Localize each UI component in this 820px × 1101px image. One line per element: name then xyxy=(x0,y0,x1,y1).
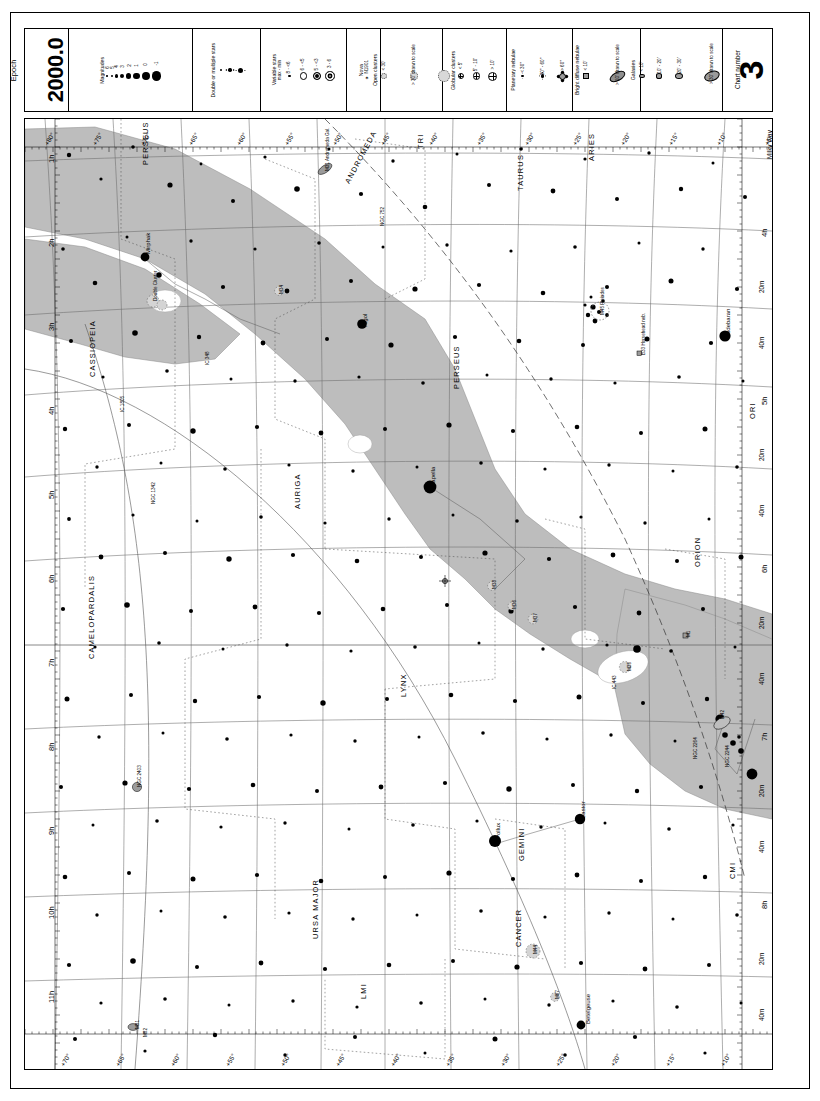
legend-ocl-label: > 30' drawn to scale xyxy=(409,44,418,85)
legend-chart-number: Chart number 3 xyxy=(723,29,772,111)
legend-mag-label: -1 xyxy=(152,62,161,66)
double-star-symbol-small xyxy=(220,69,222,71)
legend-var-label: 6 - <5 xyxy=(299,59,308,71)
legend-epoch: Epoch 2000.0 xyxy=(25,29,69,111)
legend-gx-3: 20' - 30' xyxy=(670,29,688,111)
axis-tick-label: 20m xyxy=(758,953,765,965)
deep-sky-label: M34 xyxy=(279,285,284,294)
axis-tick-label: 20m xyxy=(758,449,765,461)
constellation-label: ORI xyxy=(748,402,757,419)
legend-gcl-label: < 5' xyxy=(456,62,465,69)
deep-sky-label: NGC 752 xyxy=(380,207,385,226)
axis-tick-label: 5h xyxy=(760,397,769,405)
constellation-label: LYNX xyxy=(399,673,408,697)
constellation-label: CAMELOPARDALIS xyxy=(87,575,96,659)
axis-tick-label: 4h xyxy=(760,229,769,237)
axis-tick-label: 4h xyxy=(47,407,56,415)
deep-sky-label: NGC 2244 xyxy=(725,745,730,767)
axis-tick-label: 40m xyxy=(758,841,765,853)
constellation-label: AURIGA xyxy=(293,473,302,509)
constellation-label: CANCER xyxy=(514,909,523,947)
constellation-label: LMI xyxy=(359,983,368,999)
star-name-label: Aldebaran xyxy=(725,309,731,336)
star-name-label: Capella xyxy=(430,467,436,487)
legend-bn-1: < 10' xyxy=(580,29,592,111)
constellation-label: CASSIOPEIA xyxy=(88,320,97,377)
star-name-label: Pollux xyxy=(495,823,501,839)
deep-sky-label: NGC 1342 xyxy=(151,482,156,504)
axis-tick-label: 7h xyxy=(47,659,56,667)
legend-gcl-label: > 10' xyxy=(488,59,497,69)
legend-ocl-1: < 30' xyxy=(378,29,390,111)
legend-var-1: 8 - <6 xyxy=(282,29,296,111)
legend-var-4: 3 - 6 xyxy=(324,29,335,111)
constellation-label: GEMINI xyxy=(517,828,526,861)
deep-sky-label: M44 xyxy=(533,945,538,954)
axis-tick-label: 6h xyxy=(760,565,769,573)
legend-open-clusters-title: Open clusters xyxy=(372,54,378,86)
deep-sky-label: M81 xyxy=(135,1020,140,1029)
legend-gx-1: < 10' xyxy=(636,29,648,111)
axis-tick-label: 8h xyxy=(760,901,769,909)
deep-sky-label: M1 xyxy=(686,631,691,637)
axis-tick-label: 2h xyxy=(47,239,56,247)
legend-var-2: 6 - <5 xyxy=(296,29,310,111)
legend-mag-label: 1 xyxy=(132,64,141,67)
deep-sky-label: B33 Horsehead neb. xyxy=(641,313,646,355)
legend-gcl-2: 5' - 10' xyxy=(468,29,484,111)
legend-pn-3: > 60" xyxy=(556,29,569,111)
legend-pn-label: < 30" xyxy=(518,62,527,73)
star-name-label: Betelgeuse xyxy=(585,994,591,1024)
legend-gx-label: < 10' xyxy=(638,61,647,71)
star-name-label: Castor xyxy=(580,801,586,819)
constellation-label: URSA MAJOR xyxy=(311,879,320,939)
legend-pn-label: > 60" xyxy=(558,60,567,71)
legend-var-label: 8 - <6 xyxy=(285,61,294,73)
star-name-label: Mirphak xyxy=(145,233,151,254)
legend-pn-1: < 30" xyxy=(516,29,529,111)
constellation-label: TRI xyxy=(416,133,425,149)
epoch-word: Epoch xyxy=(11,59,20,81)
star-name-label: Algol xyxy=(362,314,368,327)
deep-sky-label: M82 xyxy=(143,1028,148,1037)
legend-mag-minus1: -1 xyxy=(151,29,162,111)
axis-ticks xyxy=(25,119,772,1069)
legend-magnitudes: Magnitudes 6 5 4 3 2 1 0 -1 xyxy=(69,29,193,111)
constellation-label: ARIES xyxy=(587,133,596,161)
legend-gcl-1: < 5' xyxy=(456,29,465,111)
legend-var-3: 5 - <3 xyxy=(310,29,324,111)
legend-globular-clusters: Globular clusters < 5' 5' - 10' > 10' xyxy=(443,29,507,111)
axis-tick-label: 1h xyxy=(47,155,56,163)
legend-bn-label: > 10' drawn to scale xyxy=(613,44,622,85)
legend-planetary-nebulae: Planetary nebulae < 30" 30" - 60" > 60" xyxy=(507,29,573,111)
deep-sky-label: M42 xyxy=(720,710,725,719)
legend-bn-label: < 10' xyxy=(582,60,591,70)
legend-ocl-2: > 30' drawn to scale xyxy=(392,29,435,111)
legend-bright-nebulae-title: Bright diffuse nebulae xyxy=(574,45,580,95)
axis-tick-label: 7h xyxy=(760,733,769,741)
axis-tick-label: 10h xyxy=(47,906,56,919)
axis-tick-label: 40m xyxy=(758,337,765,349)
legend-gx-label: > 30' drawn to scale xyxy=(707,43,716,84)
legend-globular-title: Globular clusters xyxy=(450,51,456,90)
deep-sky-label: Double Cluster xyxy=(153,271,158,301)
star-chart-map[interactable]: ANDROMEDAPERSEUSTRIARIESTAURUSCASSIOPEIA… xyxy=(24,118,773,1070)
deep-sky-label: M37 xyxy=(533,613,538,622)
legend-gx-label: 10' - 20' xyxy=(655,58,664,74)
deep-sky-label: M35 xyxy=(627,662,632,671)
axis-tick-label: 40m xyxy=(758,505,765,517)
deep-sky-label: M36 xyxy=(512,600,517,609)
deep-sky-label: M38 xyxy=(492,580,497,589)
constellation-label: CMI xyxy=(728,862,737,879)
chart-number-value: 3 xyxy=(734,60,768,79)
legend-mag-0: 0 xyxy=(141,29,151,111)
legend-mag-2: 2 xyxy=(125,29,132,111)
legend-gx-2: 10' - 20' xyxy=(650,29,668,111)
legend-var-label: 5 - <3 xyxy=(313,58,322,70)
legend-double-title: Double or multiple stars xyxy=(210,43,216,98)
axis-tick-label: 20m xyxy=(758,785,765,797)
deep-sky-label: M67 xyxy=(555,990,560,999)
legend-variable-subtitle: max - min xyxy=(277,60,282,80)
epoch-value: 2000.0 xyxy=(43,38,69,102)
deep-sky-label: IC 1805 xyxy=(120,396,125,412)
